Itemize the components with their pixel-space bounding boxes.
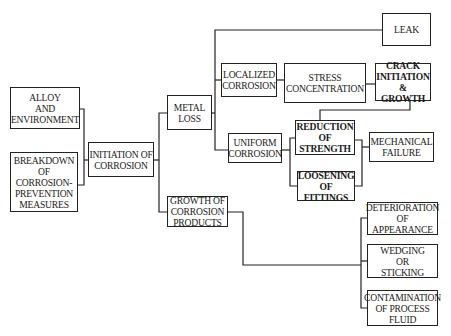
node-initiation-of-corrosion: INITIATION OF CORROSION [88,142,154,177]
node-breakdown-of-corrosion-prevention: BREAKDOWN OF CORROSION- PREVENTION MEASU… [10,152,78,212]
node-growth-of-corrosion-products: GROWTH OF CORROSION PRODUCTS [167,196,228,227]
node-leak: LEAK [382,13,431,46]
node-uniform-corrosion: UNIFORM CORROSION [228,133,282,163]
node-alloy-and-environment: ALLOY AND ENVIRONMENT [10,87,80,129]
node-wedging-or-sticking: WEDGING OR STICKING [367,244,438,278]
node-localized-corrosion: LOCALIZED CORROSION [221,63,277,97]
node-contamination-of-process-fluid: CONTAMINATION OF PROCESS FLUID [367,290,438,326]
node-crack-initiation-and-growth: CRACK INITIATION & GROWTH [375,63,431,101]
node-metal-loss: METAL LOSS [167,95,212,130]
node-reduction-of-strength: REDUCTION OF STRENGTH [295,120,355,155]
node-deterioration-of-appearance: DETERIORATION OF APPEARANCE [367,202,438,235]
node-loosening-of-fittings: LOOSENING OF FITTINGS [297,171,355,201]
node-mechanical-failure: MECHANICAL FAILURE [369,132,434,162]
node-stress-concentration: STRESS CONCENTRATION [284,63,366,103]
